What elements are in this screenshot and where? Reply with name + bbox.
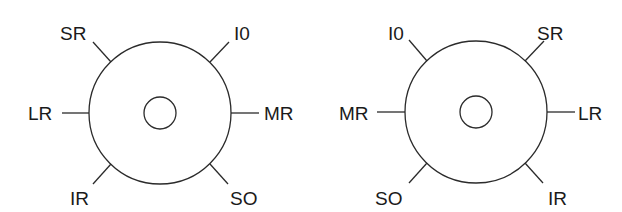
label-lateral-left: MR (339, 103, 369, 124)
superior-left-line (93, 42, 111, 62)
label-lateral-right: MR (264, 103, 294, 124)
right-eye-diagram: I0 SR MR LR SO IR (339, 23, 602, 209)
left-eye-diagram: SR I0 LR MR IR SO (28, 23, 294, 209)
label-lateral-left: LR (28, 103, 52, 124)
inferior-left-line (409, 163, 427, 183)
eyeball-outline (405, 41, 547, 183)
label-inferior-right: IR (548, 188, 567, 209)
eye-muscle-diagrams: SR I0 LR MR IR SO I0 SR MR LR SO IR (0, 0, 622, 212)
inferior-right-line (525, 163, 543, 183)
superior-right-line (210, 42, 229, 62)
label-superior-right: I0 (234, 23, 250, 44)
label-superior-left: SR (60, 23, 86, 44)
label-lateral-right: LR (578, 103, 602, 124)
label-inferior-right: SO (230, 188, 257, 209)
pupil-circle (460, 96, 492, 128)
label-superior-right: SR (537, 23, 563, 44)
label-inferior-left: IR (70, 188, 89, 209)
superior-right-line (525, 41, 544, 61)
label-inferior-left: SO (375, 188, 402, 209)
eyeball-outline (89, 42, 231, 184)
label-superior-left: I0 (388, 23, 404, 44)
inferior-left-line (93, 164, 111, 184)
superior-left-line (409, 40, 427, 61)
pupil-circle (144, 97, 176, 129)
inferior-right-line (210, 164, 228, 184)
